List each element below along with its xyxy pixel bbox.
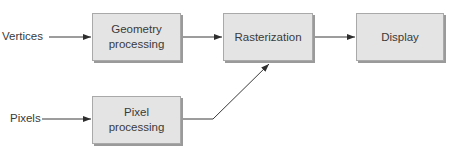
geometry-processing-box: Geometry processing (92, 13, 181, 61)
rasterization-label: Rasterization (234, 30, 301, 45)
display-label: Display (381, 30, 419, 45)
rasterization-box: Rasterization (223, 13, 313, 61)
pixel-processing-line2: processing (109, 120, 165, 135)
pixel-processing-line1: Pixel (109, 105, 165, 120)
pixel-processing-box: Pixel processing (92, 96, 181, 144)
vertices-label: Vertices (2, 30, 43, 42)
arrow-pixel-processing-to-rasterization (182, 64, 269, 119)
pixels-label: Pixels (10, 112, 41, 124)
graphics-pipeline-diagram: Vertices Pixels Geometry processing Rast… (0, 0, 456, 152)
geometry-processing-line2: processing (109, 37, 165, 52)
display-box: Display (356, 13, 444, 61)
geometry-processing-line1: Geometry (109, 22, 165, 37)
